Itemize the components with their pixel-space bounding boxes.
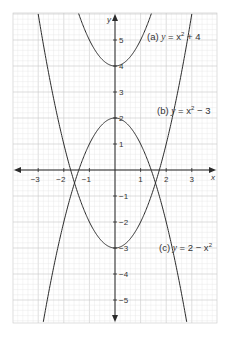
x-tick-label: −1 — [82, 175, 92, 184]
y-tick-label: 2 — [119, 114, 124, 123]
equation-label-a: (a) y = x2 + 4 — [147, 31, 201, 42]
y-tick-label: −4 — [119, 270, 129, 279]
x-tick-label: 1 — [138, 175, 143, 184]
y-tick-label: 4 — [119, 62, 124, 71]
y-tick-label: 5 — [119, 36, 124, 45]
y-tick-label: −3 — [119, 244, 129, 253]
equation-label-c: (c) y = 2 − x2 — [159, 242, 213, 253]
x-tick-label: −2 — [56, 175, 66, 184]
x-tick-label: 3 — [190, 175, 195, 184]
y-tick-label: −5 — [119, 296, 129, 305]
x-tick-label: 2 — [164, 175, 169, 184]
y-tick-label: 1 — [119, 140, 124, 149]
x-tick-label: −3 — [31, 175, 41, 184]
graph-quadratics: −3−2−112354321−1−2−3−4−5 y x (a) y = x2 … — [0, 0, 227, 340]
y-tick-label: −2 — [119, 218, 129, 227]
y-tick-label: −1 — [119, 192, 129, 201]
y-tick-label: 3 — [119, 88, 124, 97]
equation-label-b: (b) y = x2 − 3 — [157, 105, 211, 116]
